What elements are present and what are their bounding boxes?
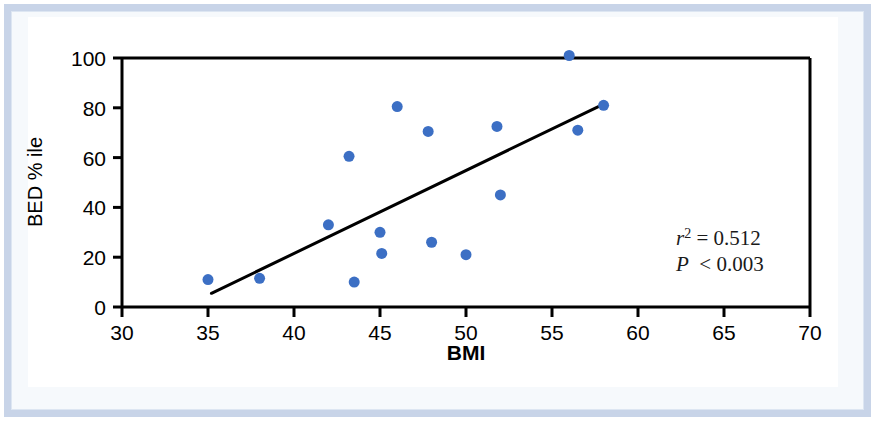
scatter-point <box>392 101 403 112</box>
scatter-point <box>572 125 583 136</box>
scatter-point <box>203 274 214 285</box>
x-tick-label: 70 <box>798 321 821 344</box>
y-axis-title: BED % ile <box>24 137 46 227</box>
y-tick-label: 40 <box>83 196 106 219</box>
scatter-chart: 020406080100 303540455055606570 BED % il… <box>0 0 875 421</box>
scatter-point-group <box>203 50 610 288</box>
p-value: 0.003 <box>716 252 763 276</box>
regression-trendline <box>211 104 603 293</box>
y-tick-label: 0 <box>94 296 106 319</box>
scatter-point <box>349 277 360 288</box>
scatter-point <box>426 237 437 248</box>
p-relation: < <box>699 252 711 276</box>
scatter-point <box>491 121 502 132</box>
x-tick-label: 65 <box>712 321 735 344</box>
scatter-point <box>375 227 386 238</box>
scatter-point <box>423 126 434 137</box>
p-symbol: P <box>675 252 689 276</box>
y-tick-label: 80 <box>83 97 106 120</box>
x-tick-label: 30 <box>110 321 133 344</box>
x-tick-label: 55 <box>540 321 563 344</box>
scatter-point <box>461 249 472 260</box>
x-axis-title: BMI <box>447 341 486 364</box>
x-tick-label: 40 <box>282 321 305 344</box>
y-tick-label: 20 <box>83 246 106 269</box>
x-tick-label: 35 <box>196 321 219 344</box>
x-tick-label: 60 <box>626 321 649 344</box>
p-value-annotation: P < 0.003 <box>675 252 764 276</box>
r-value: 0.512 <box>714 226 761 250</box>
statistics-annotation: r2 = 0.512 P < 0.003 <box>675 226 764 276</box>
r-relation: = <box>696 226 708 250</box>
scatter-point <box>323 219 334 230</box>
x-tick-label: 45 <box>368 321 391 344</box>
r-exponent: 2 <box>684 226 691 241</box>
p-relation-spacer <box>689 252 700 276</box>
chart-canvas: 020406080100 303540455055606570 BED % il… <box>0 0 875 421</box>
scatter-point <box>344 151 355 162</box>
y-axis-tick-labels: 020406080100 <box>71 47 106 319</box>
scatter-point <box>598 100 609 111</box>
scatter-point <box>564 50 575 61</box>
r-squared-annotation: r2 = 0.512 <box>676 226 761 250</box>
y-tick-label: 60 <box>83 147 106 170</box>
y-tick-label: 100 <box>71 47 106 70</box>
scatter-point <box>254 273 265 284</box>
scatter-point <box>376 248 387 259</box>
scatter-point <box>495 189 506 200</box>
